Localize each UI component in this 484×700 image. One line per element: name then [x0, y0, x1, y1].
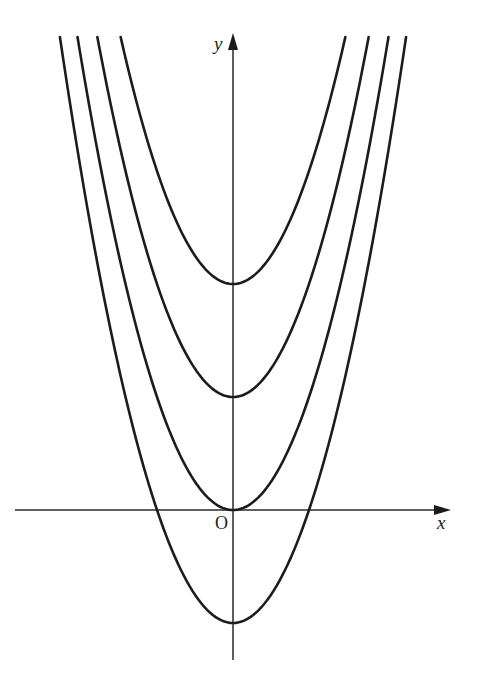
y-axis-label: y — [212, 33, 223, 54]
origin-label: O — [215, 513, 228, 533]
axes — [15, 33, 451, 660]
x-axis-label: x — [436, 512, 446, 533]
y-axis-arrow-icon — [228, 33, 238, 50]
parabola-family-chart: y x O — [0, 0, 484, 700]
